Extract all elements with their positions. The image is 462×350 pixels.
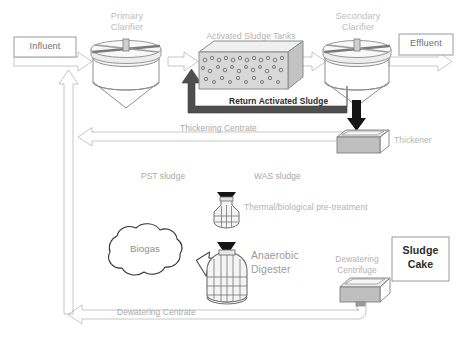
primary-clarifier-vessel	[91, 39, 161, 108]
arrow-secondary-underflow	[347, 100, 366, 131]
secondary-clarifier-vessel	[323, 39, 391, 106]
thickening-centrate-label: Thickening Centrate	[180, 124, 257, 133]
dewatering-centrifuge-vessel	[340, 278, 390, 306]
was-sludge-label: WAS sludge	[254, 172, 301, 181]
dewatering-centrate-label: Dewatering Centrate	[117, 308, 196, 317]
pst-sludge-label: PST sludge	[141, 172, 185, 181]
secondary-clarifier-label-line1: Secondary	[327, 11, 389, 23]
dewatering-centrifuge-label-line2: Centrifuge	[327, 266, 387, 275]
biogas-label: Biogas	[116, 244, 174, 255]
primary-clarifier-label-line1: Primary	[96, 11, 158, 23]
process-flow-diagram: Influent Effluent Primary Clarifier Acti…	[0, 0, 462, 350]
anaerobic-digester-label-line2: Digester	[251, 263, 291, 277]
pretreatment-label: Thermal/biological pre-treatment	[244, 203, 368, 212]
equipment-layer	[0, 0, 462, 350]
anaerobic-digester-label-line1: Anaerobic	[251, 249, 299, 263]
influent-label: Influent	[14, 41, 76, 51]
thickener-label: Thickener	[394, 136, 432, 145]
primary-clarifier-label-line2: Clarifier	[96, 22, 158, 34]
anaerobic-digester-vessel	[207, 250, 247, 304]
dewatering-centrifuge-label-line1: Dewatering	[327, 255, 387, 264]
return-activated-sludge-label: Return Activated Sludge	[229, 97, 328, 106]
activated-sludge-tanks-label: Activated Sludge Tanks	[199, 32, 303, 41]
pretreatment-vessel	[214, 197, 239, 228]
thickener-vessel	[337, 130, 389, 153]
sludge-cake-label-line1: Sludge	[392, 244, 449, 257]
sludge-cake-label-line2: Cake	[392, 258, 449, 271]
effluent-label: Effluent	[399, 38, 453, 48]
activated-sludge-tanks-vessel	[199, 41, 303, 89]
secondary-clarifier-label-line2: Clarifier	[327, 22, 389, 34]
